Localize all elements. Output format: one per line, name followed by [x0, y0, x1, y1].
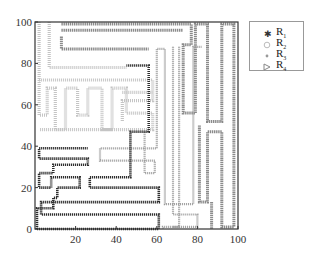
y-tick-label: 20: [21, 182, 33, 194]
x-tick-label: 40: [111, 233, 123, 245]
plot-area: [37, 22, 234, 229]
x-tick-label: 80: [192, 233, 204, 245]
path-r1: [37, 148, 88, 229]
path-r3: [100, 47, 202, 204]
legend-item-r4: R4: [250, 59, 303, 71]
y-tick-label: 80: [21, 57, 33, 69]
y-tick-label: 0: [27, 223, 33, 235]
y-tick-label: 40: [21, 140, 33, 152]
y-tick-label: 60: [21, 99, 33, 111]
x-tick-label: 100: [230, 233, 247, 245]
path-r4: [61, 37, 148, 49]
triangle-marker-icon: [262, 59, 272, 71]
y-tick-label: 100: [16, 16, 33, 28]
legend: ✱ R1 R2 R3 R4: [249, 21, 304, 71]
x-tick-label: 20: [70, 233, 82, 245]
x-tick-label: 60: [151, 233, 163, 245]
path-r2: [39, 22, 153, 130]
